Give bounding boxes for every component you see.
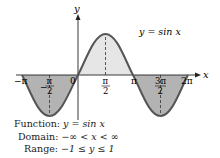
function-label: Function: <box>14 118 60 129</box>
x-axis-arrow-icon <box>195 73 201 78</box>
tick-3-half-pi-den: 2 <box>158 86 163 96</box>
tick-neg-half-pi-den: 2 <box>47 86 52 96</box>
function-value: y = sin x <box>63 118 105 129</box>
tick-pi: π <box>131 76 137 86</box>
tick-half-pi-den: 2 <box>103 86 108 96</box>
function-info: Function: y = sin x Domain: −∞ < x < ∞ R… <box>0 118 120 156</box>
tick-neg-pi: −π <box>14 76 28 86</box>
curve-label: y = sin x <box>138 26 181 37</box>
y-axis-arrow-icon <box>76 14 81 20</box>
domain-value: −∞ < x < ∞ <box>61 131 118 142</box>
x-axis-label: x <box>203 69 209 80</box>
tick-half-pi-num: π <box>103 76 109 86</box>
function-row: Function: y = sin x <box>0 118 120 131</box>
domain-label: Domain: <box>18 131 58 142</box>
tick-2pi: 2π <box>181 76 193 86</box>
domain-row: Domain: −∞ < x < ∞ <box>0 131 120 144</box>
tick-3-half-pi-num: 3π <box>155 76 166 86</box>
y-axis-label: y <box>73 3 80 14</box>
range-value: −1 ≤ y ≤ 1 <box>61 143 114 154</box>
range-row: Range: −1 ≤ y ≤ 1 <box>0 143 120 156</box>
tick-zero: 0 <box>70 76 76 86</box>
tick-neg-half-pi-num: π <box>47 76 53 86</box>
range-label: Range: <box>24 143 58 154</box>
